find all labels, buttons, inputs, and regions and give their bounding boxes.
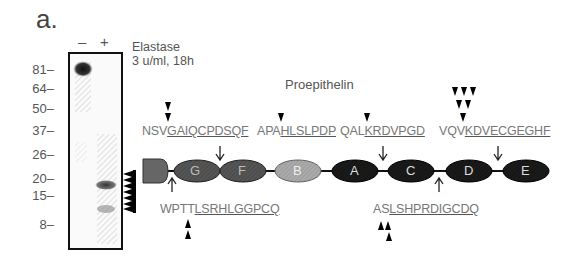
domain-label-D: D xyxy=(464,163,473,178)
sequence-6: ASLSHPRDIGCDQ xyxy=(373,202,479,216)
panel-label: a. xyxy=(36,4,58,35)
treatment-conditions: 3 u/ml, 18h xyxy=(132,54,194,68)
treatment-enzyme: Elastase xyxy=(132,40,194,54)
mw-marker: 64– xyxy=(14,81,54,96)
cleavage-arrows-down xyxy=(216,146,502,160)
mw-marker: 37– xyxy=(14,123,54,138)
signal-peptide-block xyxy=(143,159,168,183)
mw-marker: 8– xyxy=(14,217,54,232)
cleavage-arrows-up xyxy=(168,178,443,192)
domain-label-B: B xyxy=(293,163,302,178)
domain-label-C: C xyxy=(406,163,415,178)
treatment-label: Elastase 3 u/ml, 18h xyxy=(132,40,194,68)
lane-plus-label: + xyxy=(100,33,109,50)
top-cleavage-arrowheads xyxy=(165,87,476,122)
mw-marker: 50– xyxy=(14,101,54,116)
mw-marker: 20– xyxy=(14,171,54,186)
mw-marker: 26– xyxy=(14,147,54,162)
gel-fragment-arrowheads xyxy=(123,170,136,213)
mw-marker: 81– xyxy=(14,62,54,77)
sequence-1: NSVGAIQCPDSQF xyxy=(142,124,248,138)
domain-label-E: E xyxy=(521,163,530,178)
domain-label-F: F xyxy=(238,163,246,178)
sequence-5: WPTTLSRHLGGPCQ xyxy=(160,202,279,216)
sequence-2: APAHLSLPDP xyxy=(257,124,336,138)
diagram-title: Proepithelin xyxy=(285,78,354,92)
bottom-cleavage-arrowheads xyxy=(185,219,392,241)
gel-bands xyxy=(70,54,121,248)
sequence-3: QALKRDVPGD xyxy=(340,124,425,138)
domain-label-A: A xyxy=(350,163,359,178)
lane-minus-label: – xyxy=(78,33,86,50)
mw-marker: 15– xyxy=(14,188,54,203)
domain-label-G: G xyxy=(190,163,200,178)
sequence-4: VQVKDVECGEGHF xyxy=(439,124,550,138)
gel-image xyxy=(68,52,123,250)
